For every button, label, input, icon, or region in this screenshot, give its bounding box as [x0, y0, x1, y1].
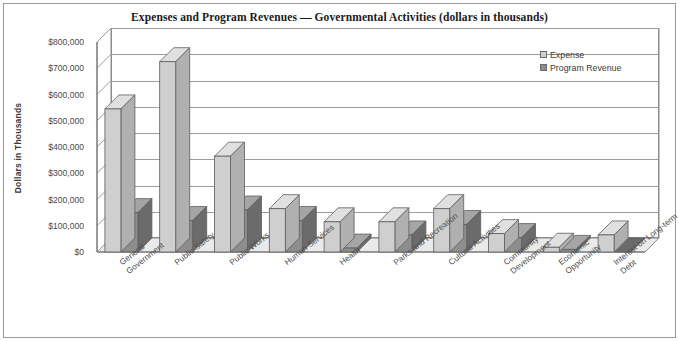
legend-label: Program Revenue — [550, 63, 621, 73]
bar-expense — [105, 95, 135, 252]
bar-expense — [215, 142, 245, 252]
legend-label: Expense — [550, 50, 584, 60]
bar-expense — [160, 48, 190, 252]
legend-entry[interactable]: Program Revenue — [540, 61, 621, 74]
chart-legend: ExpenseProgram Revenue — [540, 48, 621, 74]
legend-swatch-icon — [540, 51, 547, 58]
legend-entry[interactable]: Expense — [540, 48, 621, 61]
legend-swatch-icon — [540, 64, 547, 71]
